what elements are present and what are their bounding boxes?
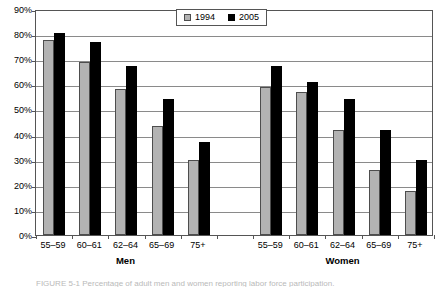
bar-pair bbox=[398, 11, 434, 235]
x-axis-category-label: 62–64 bbox=[113, 240, 138, 250]
x-axis-category-label: 65–69 bbox=[149, 240, 174, 250]
bar-pair bbox=[145, 11, 181, 235]
y-axis-tick-label: 40% bbox=[14, 131, 32, 140]
x-axis-tick-mark bbox=[289, 235, 290, 239]
bar-1994[interactable] bbox=[152, 126, 163, 235]
legend-swatch-icon bbox=[184, 14, 191, 21]
bar-2005[interactable] bbox=[416, 160, 427, 235]
legend-label: 1994 bbox=[195, 13, 215, 22]
y-axis-tick-label: 10% bbox=[14, 206, 32, 215]
bar-pair bbox=[253, 11, 289, 235]
x-axis-category-label: 60–61 bbox=[294, 240, 319, 250]
bar-group bbox=[145, 11, 181, 235]
x-axis-category-label: 65–69 bbox=[366, 240, 391, 250]
y-axis-tick-label: 30% bbox=[14, 156, 32, 165]
x-axis-category-label: 75+ bbox=[407, 240, 422, 250]
group-label-men: Men bbox=[116, 255, 135, 266]
bar-pair bbox=[325, 11, 361, 235]
x-axis-category-label: 55–59 bbox=[258, 240, 283, 250]
y-axis-tick-label: 70% bbox=[14, 56, 32, 65]
bar-group bbox=[72, 11, 108, 235]
bar-2005[interactable] bbox=[271, 66, 282, 236]
bar-group bbox=[253, 11, 289, 235]
y-axis-tick-label: 90% bbox=[14, 6, 32, 15]
bar-1994[interactable] bbox=[369, 170, 380, 235]
x-axis-category-label: 55–59 bbox=[41, 240, 66, 250]
group-label-women: Women bbox=[325, 255, 359, 266]
bar-2005[interactable] bbox=[307, 82, 318, 235]
bar-2005[interactable] bbox=[199, 142, 210, 235]
bar-pair bbox=[72, 11, 108, 235]
bar-1994[interactable] bbox=[79, 62, 90, 235]
x-axis-tick-mark bbox=[36, 235, 37, 239]
y-axis-labels: 0%10%20%30%40%50%60%70%80%90% bbox=[0, 10, 32, 236]
bar-pair bbox=[362, 11, 398, 235]
bar-2005[interactable] bbox=[344, 99, 355, 235]
bar-2005[interactable] bbox=[54, 33, 65, 235]
bar-2005[interactable] bbox=[380, 130, 391, 235]
bar-1994[interactable] bbox=[333, 130, 344, 235]
bar-group bbox=[398, 11, 434, 235]
figure-caption: FIGURE 5-1 Percentage of adult men and w… bbox=[36, 279, 436, 287]
x-axis-tick-mark bbox=[362, 235, 363, 239]
x-axis-category-label: 60–61 bbox=[77, 240, 102, 250]
legend-entry-1994[interactable]: 1994 bbox=[184, 13, 215, 22]
bar-2005[interactable] bbox=[90, 42, 101, 235]
legend-entry-2005[interactable]: 2005 bbox=[228, 13, 259, 22]
bar-pair bbox=[289, 11, 325, 235]
y-axis-tick-label: 50% bbox=[14, 106, 32, 115]
bar-pair bbox=[181, 11, 217, 235]
x-axis-tick-mark bbox=[217, 235, 218, 239]
bar-group bbox=[289, 11, 325, 235]
legend-label: 2005 bbox=[239, 13, 259, 22]
bar-group bbox=[362, 11, 398, 235]
x-axis-group-labels: MenWomen bbox=[35, 255, 433, 268]
x-axis-tick-mark bbox=[398, 235, 399, 239]
bar-1994[interactable] bbox=[188, 160, 199, 235]
x-axis-category-label: 62–64 bbox=[330, 240, 355, 250]
y-axis-tick-label: 20% bbox=[14, 181, 32, 190]
plot-area bbox=[35, 10, 433, 236]
y-axis-tick-label: 60% bbox=[14, 81, 32, 90]
x-axis-tick-mark bbox=[181, 235, 182, 239]
x-axis-tick-mark bbox=[434, 235, 435, 239]
x-axis-tick-mark bbox=[253, 235, 254, 239]
bar-pair bbox=[36, 11, 72, 235]
x-axis-tick-mark bbox=[145, 235, 146, 239]
bar-1994[interactable] bbox=[296, 92, 307, 235]
y-axis-tick-label: 0% bbox=[19, 232, 32, 241]
bars-layer bbox=[36, 11, 432, 235]
bar-1994[interactable] bbox=[115, 89, 126, 235]
chart-legend: 19942005 bbox=[176, 9, 267, 26]
y-axis-tick-label: 80% bbox=[14, 31, 32, 40]
bar-2005[interactable] bbox=[163, 99, 174, 235]
bar-group bbox=[36, 11, 72, 235]
figure-container: 0%10%20%30%40%50%60%70%80%90% 55–5960–61… bbox=[0, 0, 441, 287]
x-axis-tick-mark bbox=[108, 235, 109, 239]
bar-group bbox=[181, 11, 217, 235]
bar-1994[interactable] bbox=[43, 40, 54, 235]
bar-2005[interactable] bbox=[126, 66, 137, 236]
x-axis-tick-mark bbox=[325, 235, 326, 239]
bar-1994[interactable] bbox=[260, 87, 271, 235]
x-axis-tick-mark bbox=[72, 235, 73, 239]
legend-swatch-icon bbox=[228, 14, 235, 21]
bar-group bbox=[108, 11, 144, 235]
bar-group bbox=[325, 11, 361, 235]
bar-pair bbox=[108, 11, 144, 235]
bar-1994[interactable] bbox=[405, 191, 416, 235]
x-axis-category-labels: 55–5960–6162–6465–6975+55–5960–6162–6465… bbox=[35, 240, 433, 252]
x-axis-category-label: 75+ bbox=[190, 240, 205, 250]
